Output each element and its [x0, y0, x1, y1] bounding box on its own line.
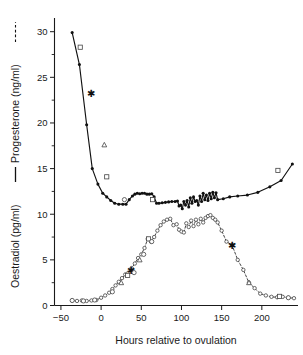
data-point-oestradiol — [114, 284, 117, 287]
extra-sample-markers: ✱✱✱ — [70, 45, 290, 303]
data-point-oestradiol — [270, 295, 273, 298]
marker-open-circle — [110, 290, 114, 294]
series-line-progesterone — [72, 33, 292, 209]
data-point-progesterone — [113, 202, 116, 205]
data-point-progesterone — [124, 203, 127, 206]
marker-open-circle — [286, 296, 290, 300]
data-point-progesterone — [128, 198, 131, 201]
data-point-progesterone — [78, 63, 81, 66]
y-axis-ticks — [50, 32, 55, 306]
data-point-progesterone — [216, 198, 219, 201]
data-series-layer: ✱✱✱ — [70, 31, 296, 303]
data-point-oestradiol — [156, 229, 159, 232]
marker-open-circle — [142, 252, 146, 256]
marker-open-square — [105, 175, 109, 179]
x-tick-label: 150 — [214, 312, 230, 323]
y-axis-label: Oestradiol (pg/ml) Progesterone (ng/ml) — [9, 22, 21, 288]
data-point-oestradiol — [159, 223, 162, 226]
data-point-progesterone — [280, 179, 283, 182]
data-point-progesterone — [91, 167, 94, 170]
data-point-progesterone — [205, 194, 208, 197]
data-point-progesterone — [256, 191, 259, 194]
data-point-progesterone — [192, 195, 195, 198]
x-tick-label: 50 — [136, 312, 147, 323]
data-point-progesterone — [170, 200, 173, 203]
y-axis-label-oestradiol: Oestradiol (pg/ml) — [9, 205, 21, 288]
data-point-progesterone — [202, 192, 205, 195]
y-tick-label: 15 — [37, 163, 48, 174]
x-tick-label: −50 — [53, 312, 69, 323]
data-point-progesterone — [181, 207, 184, 210]
x-tick-label: 0 — [98, 312, 103, 323]
y-tick-label: 5 — [42, 254, 47, 265]
axes: 051015202530 −50050100150200 — [37, 18, 298, 323]
data-point-oestradiol — [199, 217, 202, 220]
data-point-progesterone — [109, 199, 112, 202]
x-axis-ticks — [61, 306, 262, 311]
data-point-oestradiol — [99, 296, 102, 299]
marker-open-circle — [150, 240, 154, 244]
marker-open-circle — [70, 298, 74, 302]
data-point-progesterone — [71, 31, 74, 34]
data-point-progesterone — [96, 183, 99, 186]
marker-open-square — [277, 294, 281, 298]
series-line-oestradiol — [72, 215, 294, 301]
data-point-progesterone — [246, 194, 249, 197]
data-point-progesterone — [268, 185, 271, 188]
data-point-oestradiol — [201, 221, 204, 224]
data-point-progesterone — [214, 191, 217, 194]
x-tick-label: 200 — [254, 312, 270, 323]
data-point-progesterone — [161, 201, 164, 204]
data-point-oestradiol — [292, 297, 295, 300]
data-point-progesterone — [182, 200, 185, 203]
marker-asterisk: ✱ — [87, 88, 95, 99]
data-point-oestradiol — [253, 286, 256, 289]
series-markers-progesterone — [71, 31, 294, 210]
data-point-progesterone — [117, 203, 120, 206]
data-point-progesterone — [213, 196, 216, 199]
data-point-oestradiol — [259, 292, 262, 295]
marker-asterisk: ✱ — [228, 240, 236, 251]
data-point-progesterone — [210, 197, 213, 200]
data-point-progesterone — [211, 191, 214, 194]
data-point-progesterone — [291, 162, 294, 165]
y-tick-label: 30 — [37, 26, 48, 37]
data-point-oestradiol — [175, 223, 178, 226]
figure-container: Oestradiol (pg/ml) Progesterone (ng/ml) … — [0, 0, 303, 355]
data-point-oestradiol — [162, 220, 165, 223]
y-axis-tick-labels: 051015202530 — [37, 26, 48, 311]
marker-open-triangle — [102, 142, 107, 147]
marker-open-square — [78, 45, 82, 49]
data-point-progesterone — [186, 199, 189, 202]
data-point-progesterone — [184, 204, 187, 207]
data-point-progesterone — [198, 194, 201, 197]
marker-open-circle — [81, 299, 85, 303]
data-point-oestradiol — [242, 268, 245, 271]
data-point-progesterone — [236, 194, 239, 197]
data-point-oestradiol — [197, 223, 200, 226]
data-point-progesterone — [195, 199, 198, 202]
data-point-progesterone — [189, 196, 192, 199]
data-point-progesterone — [157, 202, 160, 205]
data-point-progesterone — [85, 123, 88, 126]
y-tick-label: 25 — [37, 72, 48, 83]
data-point-progesterone — [206, 199, 209, 202]
x-axis-label: Hours relative to ovulation — [115, 334, 237, 346]
data-point-progesterone — [164, 201, 167, 204]
data-point-oestradiol — [169, 217, 172, 220]
data-point-progesterone — [208, 192, 211, 195]
data-point-oestradiol — [75, 299, 78, 302]
data-point-oestradiol — [103, 294, 106, 297]
data-point-oestradiol — [192, 224, 195, 227]
data-point-oestradiol — [189, 219, 192, 222]
data-point-progesterone — [105, 195, 108, 198]
y-axis-label-progesterone: Progesterone (ng/ml) — [9, 64, 21, 163]
y-tick-label: 10 — [37, 209, 48, 220]
series-markers-oestradiol — [70, 213, 295, 302]
data-point-progesterone — [167, 200, 170, 203]
data-point-oestradiol — [182, 231, 185, 234]
y-tick-label: 0 — [42, 300, 47, 311]
data-point-progesterone — [200, 200, 203, 203]
chart-svg: Oestradiol (pg/ml) Progesterone (ng/ml) … — [0, 0, 303, 355]
data-point-progesterone — [101, 192, 104, 195]
